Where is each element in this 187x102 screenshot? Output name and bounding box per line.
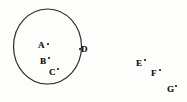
point-marker-g [175,85,177,87]
point-label-b: B [40,57,46,66]
point-marker-f [159,69,161,71]
point-marker-c [57,68,59,70]
point-label-c: C [49,68,56,77]
point-label-d: D [81,45,88,54]
diagram-svg [0,0,187,102]
figure-canvas: A B C D E F G [0,0,187,102]
point-marker-e [144,59,146,61]
point-label-f: F [151,69,157,78]
point-marker-a [47,43,49,45]
point-marker-d [79,48,81,50]
point-marker-b [48,57,50,59]
point-label-a: A [38,41,45,50]
point-label-e: E [136,59,142,68]
point-label-g: G [167,85,174,94]
